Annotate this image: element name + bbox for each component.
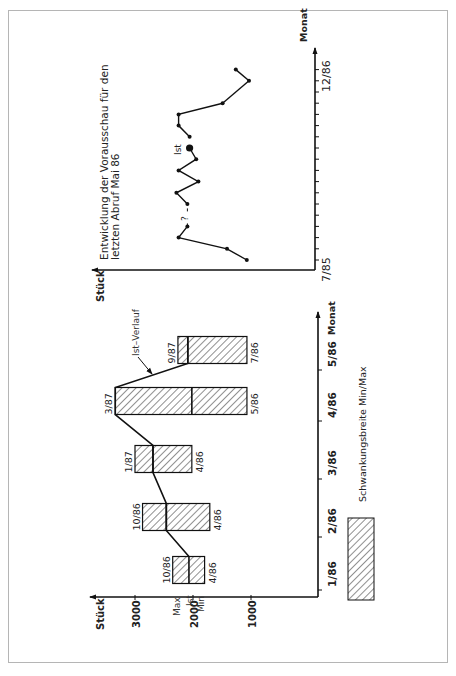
min-date-label: 4/86	[207, 562, 218, 583]
forecast-point	[188, 135, 192, 139]
top-stock-axis-label: Stück	[95, 270, 106, 302]
annotation-max: Max	[172, 597, 182, 616]
max-date-label: 10/86	[131, 503, 142, 530]
legend-swatch	[348, 518, 374, 600]
forecast-point	[196, 180, 200, 184]
forecast-point	[234, 68, 238, 72]
top-month-axis-label: Monat	[298, 8, 309, 42]
forecast-point	[225, 247, 229, 251]
top-tick-label-end: 12/86	[320, 60, 333, 92]
max-date-label: 1/87	[123, 451, 134, 472]
forecast-series	[174, 68, 251, 262]
forecast-line-segment	[236, 70, 249, 81]
range-bar	[115, 388, 247, 415]
ist-verlauf-pointer	[138, 357, 152, 374]
bottom-month-tick-label: 2/86	[326, 508, 338, 534]
gap-marker-label: ?	[180, 216, 190, 221]
forecast-line-segment	[179, 226, 247, 260]
forecast-point	[245, 258, 249, 262]
bottom-month-tick-label: 4/86	[326, 392, 338, 418]
min-date-label: 7/86	[249, 342, 260, 363]
max-date-label: 10/86	[161, 556, 172, 583]
min-date-label: 5/86	[249, 393, 260, 414]
forecast-point	[174, 191, 178, 195]
forecast-point	[177, 168, 181, 172]
annotation-ist-verlauf: Ist–Verlauf	[131, 308, 141, 356]
forecast-point	[177, 124, 181, 128]
forecast-line-segment	[179, 103, 223, 137]
bottom-month-tick-label: 3/86	[326, 450, 338, 476]
min-date-label: 4/86	[194, 451, 205, 472]
bottom-month-axis-label: Monat	[326, 301, 337, 335]
bottom-stock-tick-label: 3000	[131, 600, 142, 628]
forecast-line-chart: Entwicklung der Vorausschau für den letz…	[92, 8, 333, 302]
range-bars: 10/864/8610/864/861/874/863/875/869/877/…	[103, 337, 260, 584]
forecast-point	[194, 157, 198, 161]
min-date-label: 4/86	[212, 509, 223, 530]
annotation-min: Min	[196, 596, 206, 612]
max-date-label: 9/87	[166, 342, 177, 363]
bottom-month-tick-label: 1/86	[326, 561, 338, 587]
bottom-month-tick-label: 5/86	[326, 341, 338, 367]
bottom-month-ticks: 1/862/863/864/865/86	[318, 341, 338, 590]
forecast-point	[221, 101, 225, 105]
forecast-line-segment	[176, 148, 198, 204]
forecast-point-ist	[186, 144, 193, 151]
forecast-point	[247, 79, 251, 83]
bottom-stock-axis-label: Stück	[95, 598, 106, 630]
forecast-point	[185, 224, 189, 228]
range-bar	[143, 504, 210, 531]
range-bar-chart: Stück 300020001000 Monat 1/862/863/864/8…	[90, 301, 374, 630]
ist-marker-label: Ist	[173, 144, 183, 155]
range-bar	[135, 446, 192, 473]
figure: Entwicklung der Vorausschau für den letz…	[0, 0, 456, 676]
forecast-point	[185, 202, 189, 206]
forecast-point	[177, 236, 181, 240]
annotation-ist: Ist	[185, 595, 195, 606]
top-tick-label-start: 7/85	[320, 257, 333, 282]
legend-label: Schwankungsbreite Min/Max	[357, 366, 368, 502]
forecast-line-segment	[223, 81, 249, 103]
forecast-point	[177, 112, 181, 116]
bottom-stock-tick-label: 1000	[247, 600, 258, 628]
max-date-label: 3/87	[103, 393, 114, 414]
top-chart-title-line2: letzten Abruf Mai 86	[109, 153, 121, 260]
